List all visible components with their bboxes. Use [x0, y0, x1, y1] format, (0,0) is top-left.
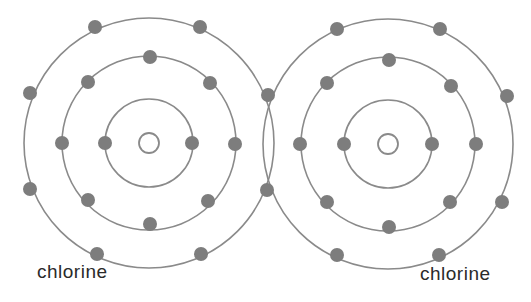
- atom-2-shell-1-electron: [337, 137, 351, 151]
- atom-1-shell-2-electron: [81, 193, 95, 207]
- atom-2-shell-2-electron: [444, 79, 458, 93]
- atom-1-shell-1-electron: [98, 136, 112, 150]
- atom-1-shell-1-electron: [185, 136, 199, 150]
- atom-2-shell-3-electron: [330, 22, 344, 36]
- atom-2-shell-2-electron: [320, 76, 334, 90]
- atom-2-shell-2-electron: [469, 137, 483, 151]
- atom-2-nucleus: [378, 134, 398, 154]
- atom-1-shell-3-electron: [260, 183, 274, 197]
- atom-2-shell-1-electron: [425, 137, 439, 151]
- atom-1-shell-3-electron: [90, 247, 104, 261]
- atom-1-shell-3-electron: [88, 20, 102, 34]
- atom-1-shell-2-electron: [228, 137, 242, 151]
- atom-1-shell-2-electron: [203, 76, 217, 90]
- atom-1-shell-3-electron: [23, 86, 37, 100]
- atom-1-shell-2-electron: [143, 50, 157, 64]
- atom-1-shell-2-electron: [81, 75, 95, 89]
- atom-1-shell-2-electron: [201, 194, 215, 208]
- atom-2-shell-3-electron: [500, 89, 514, 103]
- atom-1-shell-3-electron: [261, 88, 275, 102]
- atom-1-shell-3-electron: [193, 20, 207, 34]
- atom-1-shell-2-electron: [143, 217, 157, 231]
- atom-2-shell-2-electron: [293, 137, 307, 151]
- atom-1-nucleus: [139, 133, 159, 153]
- atom-1-shell-3-electron: [194, 247, 208, 261]
- chlorine-molecule-diagram: [0, 0, 531, 302]
- atom-2-shell-2-electron: [382, 220, 396, 234]
- atom-2-shell-3-electron: [495, 195, 509, 209]
- right-atom-label: chlorine: [420, 263, 491, 285]
- atom-2-shell-2-electron: [382, 53, 396, 67]
- atom-1-shell-3-electron: [23, 182, 37, 196]
- atom-2-shell-2-electron: [320, 195, 334, 209]
- atom-2-shell-3-electron: [330, 248, 344, 262]
- atom-2-shell-2-electron: [443, 195, 457, 209]
- atom-1-shell-2-electron: [55, 136, 69, 150]
- atom-2-shell-3-electron: [432, 248, 446, 262]
- atom-2-shell-3-electron: [433, 22, 447, 36]
- left-atom-label: chlorine: [37, 261, 108, 283]
